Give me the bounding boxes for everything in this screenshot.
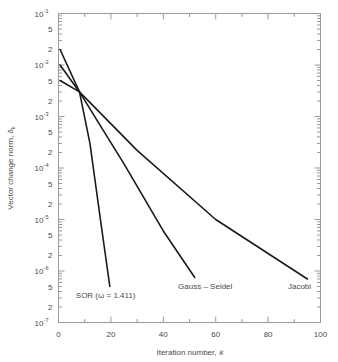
x-tick-label: 60 [211,330,220,339]
series-label: Gauss – Seidel [178,282,232,291]
y-minor-tick-label: 5 [48,128,53,137]
x-tick-label: 20 [106,330,115,339]
convergence-line-chart: 10-15210-25210-35210-45210-55210-65210-7… [0,0,338,362]
y-minor-tick-label: 2 [48,251,53,260]
y-minor-tick-label: 2 [48,45,53,54]
y-minor-tick-label: 5 [48,283,53,292]
y-axis-title: Vector change norm, δk [6,126,16,210]
y-minor-tick-label: 5 [48,25,53,34]
x-tick-label: 100 [314,330,328,339]
y-minor-tick-label: 2 [48,97,53,106]
x-tick-label: 0 [56,330,61,339]
x-axis-title: Iteration number,k [156,348,224,357]
y-minor-tick-label: 5 [48,77,53,86]
series-label: SOR (ω = 1.411) [76,291,136,300]
series-label: Jacobi [288,282,311,291]
y-minor-tick-label: 2 [48,303,53,312]
x-tick-label: 40 [159,330,168,339]
y-minor-tick-label: 5 [48,231,53,240]
x-axis-title-text: Iteration number,k [156,348,224,357]
y-minor-tick-label: 2 [48,148,53,157]
figure-container: 10-15210-25210-35210-45210-55210-65210-7… [0,0,338,362]
y-minor-tick-label: 2 [48,200,53,209]
y-minor-tick-label: 5 [48,180,53,189]
x-tick-label: 80 [264,330,273,339]
y-axis-title-text: Vector change norm, δk [6,126,16,210]
